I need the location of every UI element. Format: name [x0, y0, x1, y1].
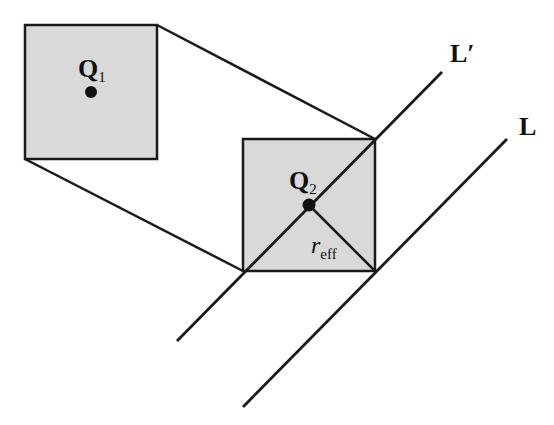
q1-point: [85, 86, 97, 98]
l-prime-label: L′: [450, 39, 475, 68]
l-label: L: [519, 112, 536, 141]
diagram-canvas: Q1 Q2 reff L′ L: [0, 0, 554, 425]
connector-bottom: [25, 159, 243, 271]
q2-point: [303, 199, 316, 212]
connector-top: [157, 25, 375, 139]
